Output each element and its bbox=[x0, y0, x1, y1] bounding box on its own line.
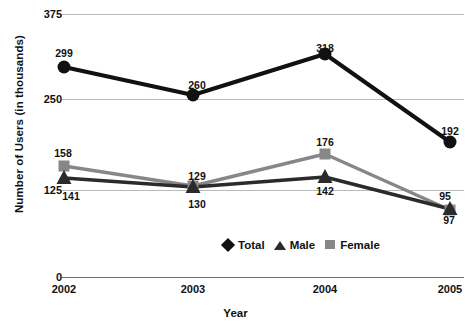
value-label-male-2003: 129 bbox=[188, 170, 206, 182]
value-label-total-2003: 260 bbox=[188, 79, 206, 91]
data-point-female-2002 bbox=[59, 161, 70, 172]
value-label-female-2004: 176 bbox=[316, 136, 334, 148]
diamond-marker-icon bbox=[222, 239, 234, 251]
data-point-total-2005 bbox=[444, 136, 457, 149]
data-point-total-2002 bbox=[58, 61, 71, 74]
data-point-female-2004 bbox=[320, 149, 331, 160]
value-label-female-2005: 95 bbox=[439, 190, 451, 202]
legend-item-total[interactable]: Total bbox=[222, 239, 265, 251]
line-chart: Number of Users (in thousands) 375 250 1… bbox=[0, 0, 471, 329]
legend-item-male[interactable]: Male bbox=[274, 239, 316, 251]
x-tick-2003: 2003 bbox=[163, 283, 223, 295]
x-tick-2002: 2002 bbox=[34, 283, 94, 295]
value-label-total-2002: 299 bbox=[55, 47, 73, 59]
value-label-total-2004: 318 bbox=[316, 42, 334, 54]
legend-item-female[interactable]: Female bbox=[324, 239, 380, 251]
x-axis-title: Year bbox=[0, 307, 471, 319]
series-line-male bbox=[64, 177, 450, 209]
y-tick-375: 375 bbox=[16, 8, 62, 20]
y-tick-0: 0 bbox=[16, 271, 62, 283]
y-tick-250: 250 bbox=[16, 93, 62, 105]
legend-label-total: Total bbox=[238, 239, 265, 251]
y-tick-125: 125 bbox=[16, 184, 62, 196]
value-label-female-2003: 130 bbox=[188, 198, 206, 210]
value-label-female-2002: 158 bbox=[54, 147, 72, 159]
triangle-marker-icon bbox=[274, 239, 286, 251]
value-label-male-2005: 97 bbox=[443, 214, 455, 226]
legend-label-female: Female bbox=[340, 239, 380, 251]
value-label-male-2004: 142 bbox=[316, 185, 334, 197]
legend-label-male: Male bbox=[290, 239, 316, 251]
x-tick-2004: 2004 bbox=[295, 283, 355, 295]
value-label-male-2002: 141 bbox=[62, 190, 80, 202]
series-line-total bbox=[64, 54, 450, 142]
x-tick-2005: 2005 bbox=[420, 283, 471, 295]
value-label-total-2005: 192 bbox=[441, 125, 459, 137]
chart-legend: Total Male Female bbox=[222, 239, 380, 251]
square-marker-icon bbox=[324, 239, 336, 251]
y-axis-tick-labels: 375 250 125 0 bbox=[0, 0, 62, 329]
